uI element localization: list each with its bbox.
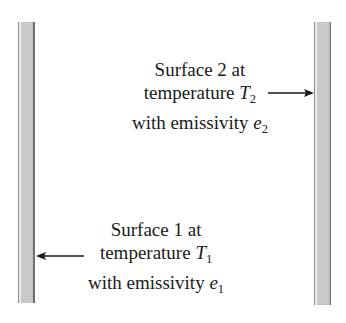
surface-1-temperature-label: temperature (100, 242, 195, 263)
surface-1-caption-line-2: temperature T1 (88, 241, 224, 271)
surface-1-caption-line-1: Surface 1 at (88, 218, 224, 241)
surface-2-plate (314, 22, 331, 305)
arrow-right-to-surface-2-icon (268, 85, 316, 101)
surface-2-caption-line-1: Surface 2 at (132, 58, 268, 81)
surface-1-temperature-symbol: T (195, 242, 206, 263)
arrow-left-to-surface-1-icon (34, 248, 84, 264)
surface-2-emissivity-label: with emissivity (132, 112, 253, 133)
surface-1-caption: Surface 1 at temperature T1 with emissiv… (88, 218, 224, 301)
radiation-between-parallel-surfaces-figure: Surface 2 at temperature T2 with emissiv… (0, 0, 346, 323)
surface-1-temperature-subscript: 1 (206, 252, 212, 266)
surface-2-caption: Surface 2 at temperature T2 with emissiv… (132, 58, 268, 141)
surface-2-emissivity-symbol: e (253, 112, 261, 133)
surface-2-temperature-label: temperature (144, 82, 239, 103)
surface-1-caption-line-3: with emissivity e1 (88, 271, 224, 301)
surface-1-emissivity-subscript: 1 (218, 282, 224, 296)
surface-1-plate (18, 22, 35, 303)
surface-1-emissivity-label: with emissivity (88, 272, 209, 293)
surface-2-emissivity-subscript: 2 (262, 122, 268, 136)
surface-1-emissivity-symbol: e (209, 272, 217, 293)
surface-2-temperature-symbol: T (239, 82, 250, 103)
surface-2-temperature-subscript: 2 (250, 92, 256, 106)
surface-2-caption-line-2: temperature T2 (132, 81, 268, 111)
surface-2-caption-line-3: with emissivity e2 (132, 111, 268, 141)
